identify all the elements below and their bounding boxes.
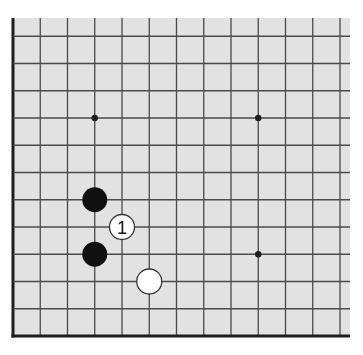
stone-disc [137,269,162,294]
stone-disc [82,187,107,212]
star-point [255,251,261,257]
board-background [13,18,350,337]
star-point [92,115,98,121]
black-stone[interactable] [82,242,107,267]
star-point [255,115,261,121]
stone-disc [82,242,107,267]
white-stone[interactable]: 1 [110,215,135,240]
black-stone[interactable] [82,187,107,212]
go-board[interactable]: 1 [0,0,363,355]
move-number-label: 1 [117,218,127,238]
white-stone[interactable] [137,269,162,294]
